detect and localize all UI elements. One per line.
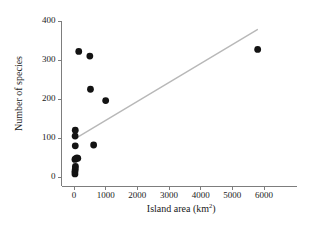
x-axis-title: Island area (km2)	[147, 202, 216, 215]
x-axis-tick-label: 1000	[97, 190, 116, 200]
data-point	[90, 142, 97, 149]
y-axis-tick-label: 400	[42, 15, 56, 25]
data-point	[102, 97, 109, 104]
data-point	[74, 155, 81, 162]
data-point	[72, 163, 79, 170]
data-point	[254, 46, 261, 53]
y-axis-tick-label: 100	[42, 132, 56, 142]
x-axis-tick-label: 4000	[192, 190, 211, 200]
data-point	[87, 86, 94, 93]
data-point	[86, 53, 93, 60]
data-point	[72, 127, 79, 134]
x-axis-tick-label: 2000	[128, 190, 147, 200]
scatter-plot-figure: 01002003004000100020003000400050006000Is…	[0, 0, 310, 237]
trend-line	[78, 30, 257, 137]
x-axis-tick-label: 3000	[160, 190, 179, 200]
y-axis-title: Number of species	[13, 56, 24, 131]
x-axis-tick-label: 0	[72, 190, 77, 200]
y-axis-tick-label: 200	[42, 93, 56, 103]
data-point	[75, 48, 82, 55]
x-axis-tick-label: 5000	[223, 190, 242, 200]
y-axis-tick-label: 0	[51, 171, 56, 181]
y-axis-tick-label: 300	[42, 54, 56, 64]
x-axis-title-close-paren: )	[212, 203, 215, 215]
x-axis-tick-label: 6000	[255, 190, 274, 200]
x-axis-title-base: Island area (km	[147, 203, 209, 215]
data-point	[72, 142, 79, 149]
data-point	[72, 133, 79, 140]
